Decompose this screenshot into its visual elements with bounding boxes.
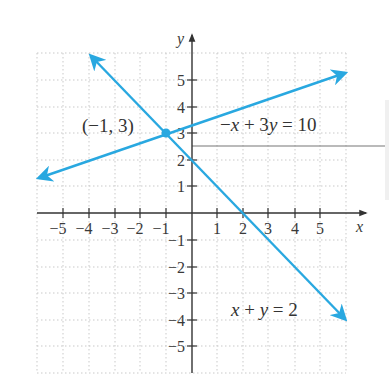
- intersection-label: (−1, 3): [82, 115, 134, 137]
- line-x-plus-y-eq-2: [91, 56, 345, 319]
- x-tick-labels: −5 −4 −3 −2 −1 1 2 3 4 5: [49, 220, 324, 237]
- svg-text:3: 3: [264, 220, 272, 237]
- svg-text:4: 4: [177, 99, 185, 116]
- svg-text:−5: −5: [168, 338, 185, 355]
- y-axis-label: y: [175, 30, 185, 48]
- page-edge-panel: [385, 100, 389, 200]
- axes: [37, 35, 366, 373]
- svg-text:−4: −4: [168, 312, 185, 329]
- svg-text:4: 4: [291, 220, 299, 237]
- svg-text:−4: −4: [75, 220, 92, 237]
- svg-text:5: 5: [177, 72, 185, 89]
- intersection-point: [162, 129, 171, 138]
- svg-text:−5: −5: [49, 220, 66, 237]
- coordinate-plane: −5 −4 −3 −2 −1 1 2 3 4 5 5 4 3 2 1 −1 −2…: [0, 0, 389, 391]
- svg-text:1: 1: [177, 178, 185, 195]
- svg-text:−2: −2: [126, 220, 143, 237]
- equation-label-1: −x + 3y = 10: [220, 114, 317, 135]
- x-axis-label: x: [355, 218, 363, 235]
- svg-text:1: 1: [213, 220, 221, 237]
- equation-label-2: x + y = 2: [230, 299, 298, 320]
- svg-text:2: 2: [177, 152, 185, 169]
- svg-text:2: 2: [239, 220, 247, 237]
- svg-text:5: 5: [316, 220, 324, 237]
- svg-text:−3: −3: [168, 285, 185, 302]
- svg-text:−3: −3: [101, 220, 118, 237]
- svg-text:−1: −1: [168, 232, 185, 249]
- svg-text:−2: −2: [168, 259, 185, 276]
- svg-text:−1: −1: [152, 220, 169, 237]
